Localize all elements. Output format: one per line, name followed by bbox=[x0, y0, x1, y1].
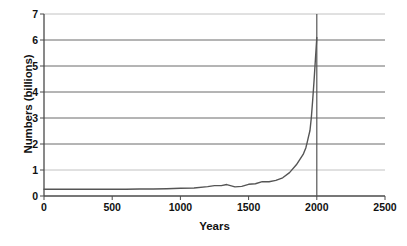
x-tick-label-500: 500 bbox=[90, 202, 134, 213]
axis-lines bbox=[44, 14, 385, 196]
x-tick-label-2000: 2000 bbox=[295, 202, 339, 213]
x-tick-label-2500: 2500 bbox=[363, 202, 407, 213]
x-axis-title: Years bbox=[44, 220, 385, 232]
series-line-0 bbox=[44, 37, 317, 189]
x-tick-label-1000: 1000 bbox=[158, 202, 202, 213]
population-growth-chart: Numbers (billions) 01234567 050010001500… bbox=[0, 0, 407, 246]
x-tick-label-1500: 1500 bbox=[227, 202, 271, 213]
axis-ticks bbox=[40, 14, 385, 200]
x-tick-label-0: 0 bbox=[22, 202, 66, 213]
x-axis-tick-labels: 05001000150020002500 bbox=[0, 202, 407, 216]
data-series-lines bbox=[44, 37, 317, 189]
gridlines bbox=[44, 14, 385, 170]
